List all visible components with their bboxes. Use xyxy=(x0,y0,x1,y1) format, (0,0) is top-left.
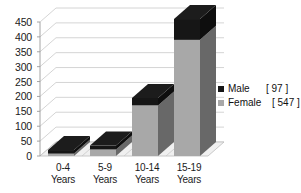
chart-legend: Male [ 97 ] Female [ 547 ] xyxy=(218,82,300,110)
x-axis-category-1: 5-9Years xyxy=(84,162,126,186)
legend-item-male: Male [ 97 ] xyxy=(218,82,300,96)
y-axis-tick-350: 350 xyxy=(2,47,32,57)
legend-label-male: Male xyxy=(228,82,266,96)
y-axis-tick-250: 250 xyxy=(2,77,32,87)
y-axis-tick-0: 0 xyxy=(2,151,32,161)
legend-item-female: Female [ 547 ] xyxy=(218,96,300,110)
x-axis-category-2-line-1: Years xyxy=(126,174,168,186)
x-axis-category-3-line-0: 15-19 xyxy=(168,162,210,174)
legend-swatch-male xyxy=(218,86,224,92)
bar-male-2-front xyxy=(132,98,158,105)
x-axis-category-3: 15-19Years xyxy=(168,162,210,186)
x-axis-category-2: 10-14Years xyxy=(126,162,168,186)
bar-female-3-side xyxy=(200,26,216,156)
x-axis-category-1-line-1: Years xyxy=(84,174,126,186)
bar-female-3-front xyxy=(174,40,200,156)
legend-value-female: [ 547 ] xyxy=(272,96,300,110)
bar-male-1-front xyxy=(90,146,116,150)
legend-label-female: Female xyxy=(228,96,272,110)
bar-series-group xyxy=(48,5,216,156)
x-axis-category-2-line-0: 10-14 xyxy=(126,162,168,174)
legend-value-male: [ 97 ] xyxy=(266,82,288,96)
x-axis-category-0: 0-4Years xyxy=(42,162,84,186)
y-axis-tick-50: 50 xyxy=(2,136,32,146)
bar-female-0-front xyxy=(48,154,74,156)
y-axis-tick-300: 300 xyxy=(2,62,32,72)
bar-female-3 xyxy=(174,26,216,156)
x-axis-category-0-line-1: Years xyxy=(42,174,84,186)
bar-female-1-front xyxy=(90,149,116,156)
y-axis-tick-200: 200 xyxy=(2,91,32,101)
y-axis-tick-150: 150 xyxy=(2,106,32,116)
x-axis-category-1-line-0: 5-9 xyxy=(84,162,126,174)
bar-female-2-front xyxy=(132,105,158,156)
y-axis-tick-400: 400 xyxy=(2,32,32,42)
y-axis-tick-450: 450 xyxy=(2,17,32,27)
legend-swatch-female xyxy=(218,100,224,106)
bar-male-3-front xyxy=(174,19,200,40)
y-axis-tick-100: 100 xyxy=(2,121,32,131)
column-chart: 050100150200250300350400450 0-4Years5-9Y… xyxy=(0,0,301,193)
x-axis-category-0-line-0: 0-4 xyxy=(42,162,84,174)
x-axis-category-3-line-1: Years xyxy=(168,174,210,186)
bar-male-0-front xyxy=(48,150,74,154)
